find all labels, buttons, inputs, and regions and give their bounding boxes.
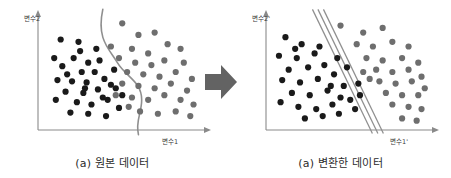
data-point: [177, 97, 183, 103]
data-point: [74, 99, 80, 105]
data-point: [344, 64, 350, 70]
data-point: [165, 41, 171, 47]
data-point: [113, 85, 119, 91]
data-point: [108, 43, 114, 49]
panel-original-data: 변수2 변수1 (a) 원본 데이터: [10, 0, 215, 178]
data-point: [129, 46, 135, 52]
data-point: [161, 92, 167, 98]
data-point: [389, 101, 395, 107]
data-point: [405, 67, 411, 73]
data-point: [155, 111, 161, 117]
panel-transformed-data: 변수2' 변수1' (a) 변환한 데이터: [238, 0, 443, 178]
data-point: [418, 106, 424, 112]
data-point: [380, 25, 386, 31]
data-point: [119, 20, 125, 26]
scatter-series-class-b-gray: [108, 20, 197, 119]
caption-original-data: (a) 원본 데이터: [10, 154, 215, 170]
data-point: [329, 101, 335, 107]
data-point: [152, 85, 158, 91]
data-point: [316, 43, 322, 49]
x-axis-arrowhead: [432, 127, 439, 133]
data-point: [320, 113, 326, 119]
data-point: [96, 57, 102, 63]
data-point: [357, 92, 363, 98]
data-point: [414, 118, 420, 124]
data-point: [294, 55, 300, 61]
decision-line-center: [318, 9, 378, 133]
data-point: [355, 81, 361, 87]
data-point: [307, 92, 313, 98]
data-point: [119, 92, 125, 98]
data-point: [113, 92, 119, 98]
data-point: [100, 94, 106, 100]
data-point: [84, 79, 90, 85]
data-point: [116, 105, 122, 111]
data-point: [352, 106, 358, 112]
data-point: [111, 67, 117, 73]
figure-container: 변수2 변수1 (a) 원본 데이터 변수2' 변수1' (a) 변환한 데이터: [0, 0, 451, 178]
data-point: [64, 71, 70, 77]
data-point: [289, 90, 295, 96]
data-point: [376, 78, 382, 84]
data-point: [399, 55, 405, 61]
data-point: [88, 101, 94, 107]
data-point: [79, 69, 85, 75]
data-point: [168, 81, 174, 87]
right-arrow-icon: [203, 62, 239, 102]
data-point: [71, 55, 77, 61]
data-point: [173, 69, 179, 75]
data-point: [415, 92, 421, 98]
data-point: [341, 83, 347, 89]
data-point: [177, 46, 183, 52]
x-axis-arrowhead: [204, 127, 211, 133]
data-point: [299, 41, 305, 47]
data-point: [184, 87, 190, 93]
data-point: [129, 94, 135, 100]
data-point: [399, 92, 405, 98]
data-point: [409, 78, 415, 84]
data-point: [54, 77, 60, 83]
data-point: [119, 81, 125, 87]
data-point: [337, 94, 343, 100]
data-point: [161, 57, 167, 63]
data-point: [383, 90, 389, 96]
data-point: [331, 71, 337, 77]
data-point: [156, 74, 162, 80]
data-point: [85, 111, 91, 117]
data-point: [82, 85, 88, 91]
data-point: [292, 46, 298, 52]
data-point: [367, 76, 373, 82]
data-point: [295, 104, 301, 110]
data-point: [145, 97, 151, 103]
data-point: [135, 83, 141, 89]
data-point: [69, 78, 75, 84]
data-point: [370, 43, 376, 49]
y-axis-label-transformed: 변수2': [252, 16, 270, 23]
data-point: [360, 29, 366, 35]
data-point: [282, 34, 288, 40]
data-point: [305, 64, 311, 70]
data-point: [336, 111, 342, 117]
data-point: [145, 50, 151, 56]
data-point: [140, 71, 146, 77]
data-point: [67, 110, 73, 116]
x-axis-label-transformed: 변수1': [390, 139, 408, 146]
data-point: [418, 74, 424, 80]
scatter-series-class-a-dark: [51, 36, 125, 119]
data-point: [373, 67, 379, 73]
data-point: [92, 69, 98, 75]
data-point: [85, 60, 91, 66]
data-point: [277, 99, 283, 105]
data-point: [389, 39, 395, 45]
data-point: [347, 97, 353, 103]
data-point: [152, 29, 158, 35]
data-point: [312, 50, 318, 56]
data-point: [354, 41, 360, 47]
data-point: [363, 55, 369, 61]
data-point: [187, 113, 193, 119]
data-point: [337, 23, 343, 29]
data-point: [126, 104, 132, 110]
data-point: [380, 57, 386, 63]
data-point: [135, 32, 141, 38]
data-point: [173, 108, 179, 114]
